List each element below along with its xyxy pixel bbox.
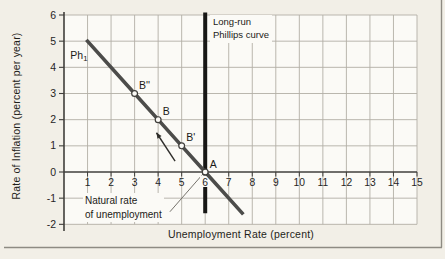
x-tick-label: 7 — [226, 177, 232, 188]
point-marker — [179, 143, 185, 149]
point-marker — [202, 169, 208, 175]
y-tick-label: -1 — [47, 192, 56, 204]
x-tick-label: 10 — [294, 177, 306, 188]
x-axis-title: Unemployment Rate (percent) — [120, 228, 362, 240]
x-tick-label: 13 — [364, 177, 376, 188]
x-tick-label: 8 — [249, 177, 255, 188]
y-tick-label: 5 — [50, 35, 56, 47]
y-tick-label: -2 — [47, 218, 56, 230]
x-tick-label: 5 — [179, 177, 185, 188]
point-label: B' — [186, 131, 195, 143]
point-marker — [155, 117, 161, 123]
x-tick-label: 12 — [341, 177, 353, 188]
x-tick-label: 14 — [388, 177, 400, 188]
x-tick-label: 1 — [85, 177, 91, 188]
x-tick-label: 15 — [411, 177, 423, 188]
x-tick-label: 6 — [202, 177, 208, 188]
y-axis-title: Rate of Inflation (percent per year) — [10, 13, 22, 219]
x-tick-label: 2 — [108, 177, 114, 188]
y-tick-label: 2 — [50, 113, 56, 125]
y-tick-label: 1 — [50, 139, 56, 151]
point-label: B'' — [139, 79, 150, 91]
x-tick-label: 3 — [132, 177, 138, 188]
natural-rate-annotation: Natural rate of unemployment — [83, 193, 164, 222]
long-run-label-line2: Phillips curve — [213, 29, 269, 42]
y-tick-label: 3 — [50, 87, 56, 99]
short-run-curve-label-subscript: 1 — [83, 54, 87, 63]
phillips-curve-figure: 6543210-1-2123456789101112131415B''BB'AP… — [0, 0, 445, 259]
x-tick-label: 11 — [318, 177, 329, 188]
long-run-phillips-curve-label: Long-run Phillips curve — [210, 15, 272, 43]
long-run-label-line1: Long-run — [213, 16, 269, 29]
x-tick-label: 9 — [273, 177, 279, 188]
point-label: A — [210, 158, 217, 170]
natural-rate-line2: of unemployment — [85, 208, 162, 222]
y-tick-label: 4 — [50, 61, 56, 73]
point-label: B — [163, 105, 170, 117]
natural-rate-line1: Natural rate — [85, 194, 162, 208]
y-tick-label: 6 — [50, 9, 56, 21]
y-tick-label: 0 — [50, 166, 56, 178]
x-tick-label: 4 — [155, 177, 161, 188]
point-marker — [132, 91, 138, 97]
